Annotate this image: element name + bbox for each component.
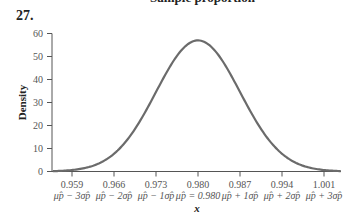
y-axis-title: Density [16, 84, 28, 120]
x-tick-sublabel: μp̂ + 3σp̂ [305, 190, 343, 201]
x-tick-sublabel: μp̂ + 2σp̂ [263, 190, 301, 201]
x-tick-label: 0.980 [187, 179, 210, 190]
y-tick-label: 60 [33, 28, 43, 39]
x-axis-title: x [193, 202, 200, 214]
x-tick-label: 0.987 [229, 179, 252, 190]
density-curve [53, 40, 341, 171]
x-tick-sublabel: μp̂ − 2σp̂ [95, 190, 133, 201]
x-tick-label: 0.973 [145, 179, 168, 190]
density-chart: 01020304050600.959μp̂ − 3σp̂0.966μp̂ − 2… [0, 0, 359, 223]
x-tick-label: 0.994 [271, 179, 294, 190]
x-tick-label: 0.959 [61, 179, 84, 190]
y-tick-label: 0 [38, 166, 43, 177]
x-tick-label: 0.966 [103, 179, 126, 190]
x-tick-sublabel: μp̂ − 1σp̂ [137, 190, 175, 201]
y-tick-label: 50 [33, 51, 43, 62]
y-tick-label: 10 [33, 143, 43, 154]
x-tick-label: 1.001 [313, 179, 336, 190]
y-tick-label: 40 [33, 74, 43, 85]
x-tick-sublabel: μp̂ − 3σp̂ [53, 190, 91, 201]
x-tick-sublabel: μp̂ = 0.980 [175, 190, 220, 201]
x-tick-sublabel: μp̂ + 1σp̂ [221, 190, 259, 201]
y-tick-label: 20 [33, 120, 43, 131]
y-tick-label: 30 [33, 97, 43, 108]
